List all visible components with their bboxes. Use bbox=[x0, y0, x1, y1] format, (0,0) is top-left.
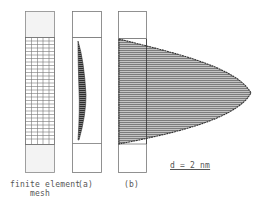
panel-a bbox=[73, 12, 102, 173]
mesh-label: finite element mesh bbox=[10, 180, 70, 198]
mesh-label-line2: mesh bbox=[10, 189, 70, 198]
panel-a-label: (a) bbox=[78, 180, 93, 189]
mesh-panel bbox=[26, 12, 55, 173]
figure-canvas bbox=[0, 0, 265, 208]
profile-b bbox=[119, 39, 251, 144]
scale-label: d = 2 nm bbox=[170, 161, 210, 170]
mesh-label-line1: finite element bbox=[10, 180, 70, 189]
panel-b bbox=[119, 12, 252, 173]
panel-b-label: (b) bbox=[124, 180, 139, 189]
